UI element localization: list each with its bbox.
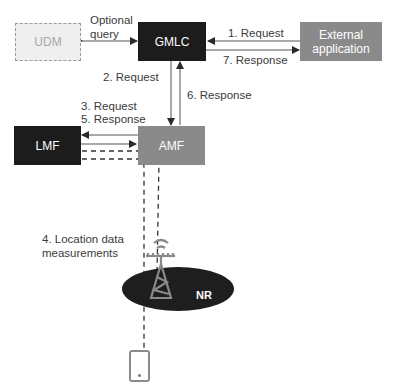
response-7-label: 7. Response [223, 53, 288, 67]
nr-cell [118, 232, 238, 314]
gmlc-label: GMLC [155, 35, 190, 49]
external-label-line1: External [319, 28, 363, 42]
external-label-line2: application [312, 42, 369, 56]
udm-node: UDM [15, 23, 81, 61]
location-label-line2: measurements [42, 246, 124, 260]
nr-ellipse [122, 267, 234, 311]
request-2-label: 2. Request [103, 70, 159, 84]
udm-label: UDM [34, 35, 61, 49]
optional-label-line2: query [90, 27, 133, 41]
optional-query-label: Optional query [90, 13, 133, 41]
request-1-label: 1. Request [228, 26, 284, 40]
lmf-node: LMF [14, 126, 81, 165]
response-6-label: 6. Response [187, 88, 252, 102]
amf-label: AMF [159, 139, 184, 153]
optional-label-line1: Optional [90, 13, 133, 27]
gmlc-node: GMLC [138, 22, 206, 61]
phone-button-dot [138, 374, 141, 377]
location-label-line1: 4. Location data [42, 232, 124, 246]
response-5-label: 5. Response [81, 112, 146, 126]
ue-phone-icon [129, 350, 150, 382]
nr-label: NR [196, 288, 212, 302]
external-application-node: External application [300, 22, 382, 61]
amf-node: AMF [138, 126, 205, 165]
request-3-label: 3. Request [81, 99, 137, 113]
location-measurements-label: 4. Location data measurements [42, 232, 124, 260]
lmf-label: LMF [36, 139, 60, 153]
